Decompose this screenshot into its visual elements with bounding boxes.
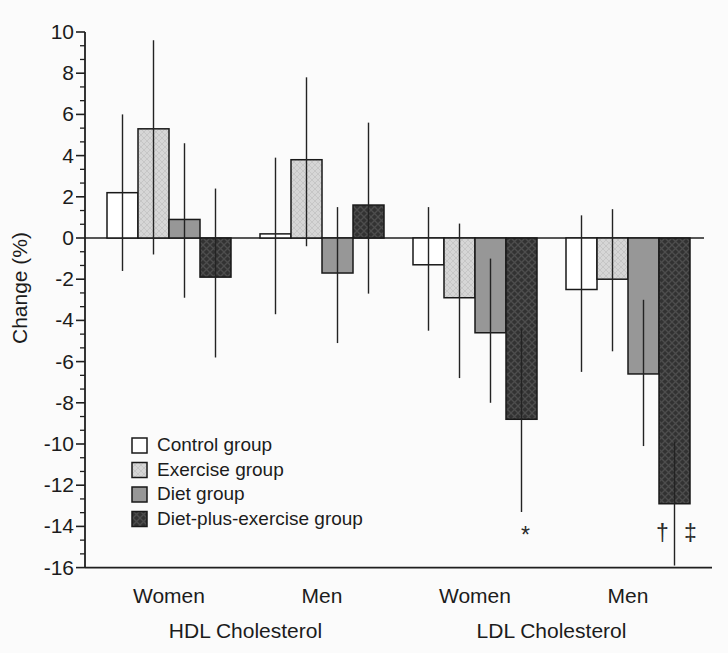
category-label: Men — [302, 584, 343, 607]
y-tick-label: -8 — [55, 391, 74, 414]
axis-group-label: LDL Cholesterol — [477, 619, 627, 642]
legend-label: Diet-plus-exercise group — [157, 508, 363, 529]
significance-marker: ‡ — [684, 520, 697, 546]
y-tick-label: -4 — [55, 308, 74, 331]
legend-swatch — [132, 487, 147, 502]
bar-chart: Change (%) 1086420-2-4-6-8-10-12-14-16Wo… — [0, 0, 728, 653]
y-axis-title: Change (%) — [8, 232, 31, 344]
legend-label: Control group — [157, 434, 272, 455]
y-tick-label: -12 — [44, 473, 74, 496]
y-tick-label: 6 — [62, 102, 74, 125]
legend-swatch — [132, 463, 147, 478]
category-label: Women — [133, 584, 205, 607]
significance-marker: † — [656, 520, 669, 546]
y-tick-label: 8 — [62, 61, 74, 84]
category-label: Men — [608, 584, 649, 607]
figure: Change (%) 1086420-2-4-6-8-10-12-14-16Wo… — [0, 0, 728, 653]
y-tick-label: 4 — [62, 144, 74, 167]
y-tick-label: -6 — [55, 350, 74, 373]
y-tick-label: -2 — [55, 267, 74, 290]
axis-group-label: HDL Cholesterol — [169, 619, 322, 642]
y-tick-label: -16 — [44, 556, 74, 579]
legend-swatch — [132, 438, 147, 453]
legend-label: Diet group — [157, 483, 245, 504]
legend-label: Exercise group — [157, 459, 284, 480]
category-label: Women — [439, 584, 511, 607]
y-tick-label: 2 — [62, 185, 74, 208]
y-tick-label: -14 — [44, 514, 75, 537]
y-tick-label: -10 — [44, 432, 74, 455]
significance-marker: * — [521, 522, 530, 548]
y-tick-label: 10 — [51, 20, 74, 43]
legend-swatch — [132, 512, 147, 527]
y-tick-label: 0 — [62, 226, 74, 249]
